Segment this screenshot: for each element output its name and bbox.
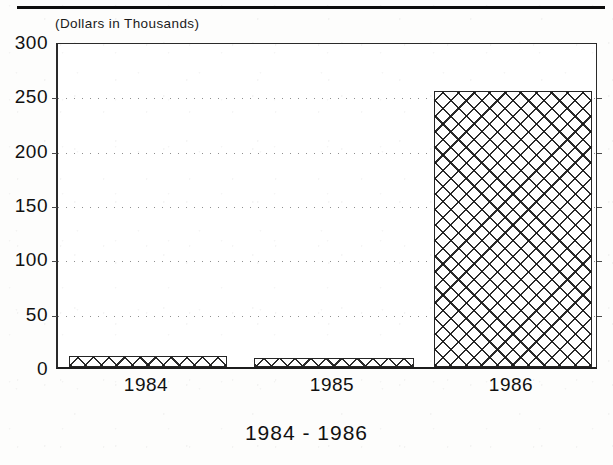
y-tick-label-300: 300 [15, 33, 48, 52]
x-axis-tick-labels: 198419851986 [56, 374, 597, 402]
bar-1986[interactable] [434, 91, 592, 367]
y-tick-mark-left-50 [52, 316, 57, 317]
y-tick-label-100: 100 [15, 250, 48, 269]
y-tick-label-150: 150 [15, 196, 48, 215]
bar-1984[interactable] [69, 356, 227, 367]
plot-inner-area [58, 44, 596, 367]
x-tick-label-1986: 1986 [432, 374, 590, 396]
y-tick-mark-right-200 [597, 153, 602, 154]
chart-page: (Dollars in Thousands) 05010015020025030… [0, 0, 613, 465]
x-axis-caption: 1984 - 1986 [0, 421, 613, 445]
units-subtitle-label: (Dollars in Thousands) [55, 16, 199, 31]
top-horizontal-rule [17, 6, 605, 9]
y-tick-label-0: 0 [37, 359, 48, 378]
y-tick-mark-right-100 [597, 261, 602, 262]
plot-frame [56, 43, 597, 369]
x-tick-label-1985: 1985 [252, 374, 412, 396]
y-tick-mark-left-250 [52, 98, 57, 99]
y-axis-tick-labels: 050100150200250300 [0, 43, 48, 369]
y-tick-mark-right-150 [597, 207, 602, 208]
y-tick-mark-right-50 [597, 316, 602, 317]
x-tick-label-1984: 1984 [67, 374, 225, 396]
y-tick-mark-left-200 [52, 153, 57, 154]
y-tick-label-200: 200 [15, 142, 48, 161]
y-tick-mark-left-150 [52, 207, 57, 208]
y-tick-mark-right-250 [597, 98, 602, 99]
bar-1985[interactable] [254, 358, 414, 367]
y-tick-label-250: 250 [15, 87, 48, 106]
y-tick-label-50: 50 [26, 305, 48, 324]
y-tick-mark-left-100 [52, 261, 57, 262]
